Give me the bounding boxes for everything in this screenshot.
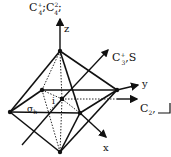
inversion-label: i: [52, 96, 55, 106]
z-label: z: [64, 23, 69, 34]
inversion-center: [60, 97, 64, 101]
octahedron-symmetry-diagram: C+4;C24; z y x C+3,S C2, σh i: [0, 0, 171, 157]
sigma-h-label: σh: [27, 104, 37, 115]
octahedron-edges: [10, 51, 117, 152]
x-label: x: [103, 142, 109, 153]
axes: [22, 19, 138, 145]
y-label: y: [141, 78, 148, 89]
c2-label: C2,: [140, 102, 156, 116]
y-axis: [117, 85, 138, 90]
c3-label: C+3,S: [112, 51, 136, 66]
perpendicular-symbol-icon: [158, 103, 170, 113]
title-c4-label: C+4;C24;: [29, 1, 62, 16]
